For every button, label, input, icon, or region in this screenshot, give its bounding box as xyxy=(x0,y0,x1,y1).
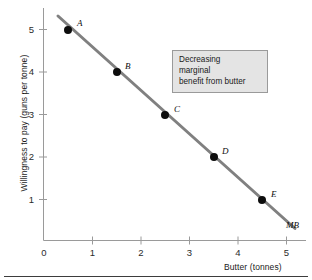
y-tick-label-2: 2 xyxy=(20,151,34,162)
x-tick-label-5: 5 xyxy=(280,247,294,258)
chart-canvas xyxy=(0,0,312,280)
data-point-b xyxy=(113,68,121,76)
data-point-label-b: B xyxy=(125,61,131,71)
data-point-d xyxy=(210,153,218,161)
x-tick-label-4: 4 xyxy=(231,247,245,258)
y-tick-label-3: 3 xyxy=(20,109,34,120)
data-point-a xyxy=(64,26,72,34)
annotation-line-3: benefit from butter xyxy=(179,77,262,88)
y-tick-label-5: 5 xyxy=(20,24,34,35)
data-point-c xyxy=(161,111,169,119)
data-point-e xyxy=(258,196,266,204)
data-point-label-e: E xyxy=(271,189,277,199)
x-tick-label-0: 0 xyxy=(37,247,51,258)
x-axis-label: Butter (tonnes) xyxy=(224,262,282,272)
y-axis-label: Willingness to pay (guns per tonne) xyxy=(19,33,29,213)
data-point-label-c: C xyxy=(174,104,180,114)
curve-label-mb: MB xyxy=(286,220,299,230)
data-point-label-a: A xyxy=(77,18,83,28)
bottom-divider xyxy=(4,276,308,277)
annotation-line-1: Decreasing xyxy=(179,55,262,66)
chart-figure: Willingness to pay (guns per tonne) Butt… xyxy=(0,0,312,280)
y-tick-label-1: 1 xyxy=(20,194,34,205)
x-tick-label-2: 2 xyxy=(134,247,148,258)
annotation-box: Decreasing marginal benefit from butter xyxy=(172,50,268,93)
annotation-line-2: marginal xyxy=(179,66,262,77)
x-tick-label-3: 3 xyxy=(183,247,197,258)
data-point-label-d: D xyxy=(222,146,229,156)
x-tick-label-1: 1 xyxy=(86,247,100,258)
y-tick-label-4: 4 xyxy=(20,66,34,77)
